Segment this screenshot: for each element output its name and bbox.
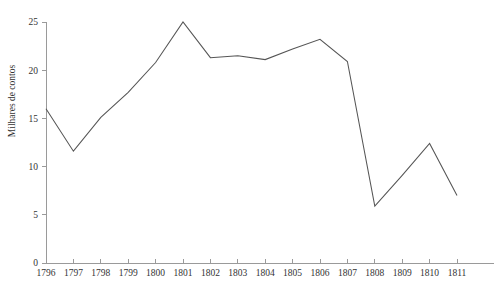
chart-figure: Milhares de contos 0510152025 1796179717… xyxy=(0,0,494,285)
x-tick-label: 1801 xyxy=(174,268,193,278)
line-chart-plot: 0510152025 17961797179817991800180118021… xyxy=(0,0,494,285)
y-tick-label: 10 xyxy=(29,162,39,172)
x-tick-label: 1811 xyxy=(448,268,467,278)
x-tick-label: 1809 xyxy=(393,268,412,278)
x-tick-label: 1804 xyxy=(256,268,275,278)
y-tick-label: 0 xyxy=(33,258,38,268)
y-axis-tick-group: 0510152025 xyxy=(29,17,47,268)
x-tick-label: 1802 xyxy=(201,268,220,278)
x-tick-label: 1797 xyxy=(64,268,83,278)
x-tick-label: 1800 xyxy=(146,268,165,278)
x-tick-label: 1799 xyxy=(119,268,138,278)
y-tick-label: 20 xyxy=(29,66,39,76)
x-tick-label: 1806 xyxy=(311,268,330,278)
y-tick-label: 25 xyxy=(29,17,39,27)
y-tick-label: 5 xyxy=(33,210,38,220)
x-axis-tick-group: 1796179717981799180018011802180318041805… xyxy=(37,259,467,278)
x-tick-label: 1803 xyxy=(228,268,247,278)
x-tick-label: 1798 xyxy=(91,268,110,278)
data-series-line xyxy=(46,22,457,206)
y-tick-label: 15 xyxy=(29,114,39,124)
x-tick-label: 1807 xyxy=(338,268,357,278)
x-tick-label: 1808 xyxy=(365,268,384,278)
x-tick-label: 1805 xyxy=(283,268,302,278)
x-tick-label: 1810 xyxy=(420,268,439,278)
x-tick-label: 1796 xyxy=(37,268,56,278)
